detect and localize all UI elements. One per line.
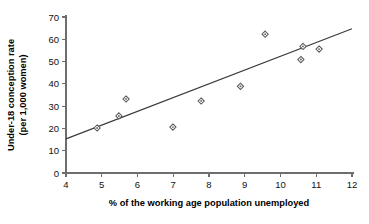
data-point-6	[262, 31, 268, 37]
x-axis-title: % of the working age population unemploy…	[109, 198, 310, 208]
x-tick-label-7: 7	[171, 179, 176, 190]
data-points	[94, 31, 322, 131]
scatter-chart: 010203040506070456789101112 % of the wor…	[0, 0, 369, 224]
data-point-7	[298, 56, 304, 62]
regression-line	[66, 29, 352, 139]
x-tick-label-12: 12	[347, 179, 358, 190]
x-tick-label-4: 4	[63, 179, 68, 190]
x-tick-label-10: 10	[275, 179, 286, 190]
y-tick-label-50: 50	[48, 56, 59, 67]
y-tick-label-10: 10	[48, 145, 59, 156]
x-tick-label-9: 9	[242, 179, 247, 190]
y-tick-label-30: 30	[48, 101, 59, 112]
marker-dot-7	[300, 59, 302, 61]
y-tick-label-0: 0	[54, 168, 59, 179]
x-tick-label-5: 5	[99, 179, 104, 190]
marker-dot-3	[172, 126, 174, 128]
marker-dot-6	[264, 33, 266, 35]
y-tick-label-20: 20	[48, 123, 59, 134]
marker-dot-2	[125, 98, 127, 100]
marker-dot-5	[240, 85, 242, 87]
y-axis-title-line2: (per 1,000 women)	[18, 54, 28, 135]
x-tick-label-8: 8	[206, 179, 211, 190]
y-tick-label-40: 40	[48, 78, 59, 89]
axes	[66, 15, 354, 173]
marker-dot-0	[96, 127, 98, 129]
marker-dot-4	[200, 100, 202, 102]
data-point-9	[316, 46, 322, 52]
marker-dot-8	[302, 45, 304, 47]
chart-canvas: 010203040506070456789101112 % of the wor…	[0, 0, 369, 224]
x-tick-label-11: 11	[311, 179, 321, 190]
data-point-4	[198, 98, 204, 104]
marker-dot-9	[318, 48, 320, 50]
y-tick-label-60: 60	[48, 34, 59, 45]
data-point-5	[237, 83, 243, 89]
data-point-2	[123, 96, 129, 102]
axis-ticks	[62, 17, 352, 177]
x-tick-label-6: 6	[135, 179, 140, 190]
y-axis-title-line1: Under-18 conception rate	[6, 39, 16, 151]
marker-dot-1	[118, 115, 120, 117]
data-point-3	[170, 124, 176, 130]
trend-line	[66, 29, 352, 139]
y-tick-label-70: 70	[48, 12, 59, 23]
